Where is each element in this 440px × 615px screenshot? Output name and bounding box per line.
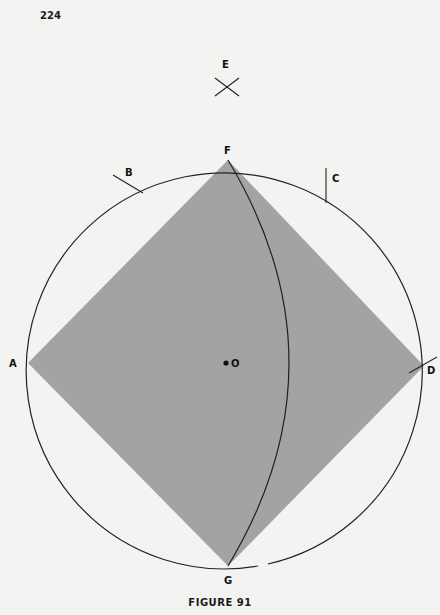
label-o: O [231, 358, 240, 369]
mark-e [215, 78, 239, 96]
figure-caption: FIGURE 91 [0, 597, 440, 608]
label-d: D [427, 365, 435, 376]
label-g: G [224, 575, 232, 586]
label-c: C [332, 173, 339, 184]
geometry-figure: E B F C A O D G [0, 0, 440, 615]
label-f: F [224, 145, 231, 156]
label-b: B [125, 167, 133, 178]
label-a: A [9, 358, 17, 369]
label-e: E [222, 59, 229, 70]
center-point-o [223, 360, 228, 365]
